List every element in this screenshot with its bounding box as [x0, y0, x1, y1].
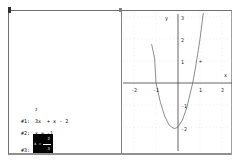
algebra-window[interactable]: 2 #1:3x + x - 2 #2:x = -1 #3: 2 x = 3: [9, 11, 121, 153]
y-tick-2: 2: [181, 37, 184, 43]
y-tick-neg2: -2: [181, 126, 187, 132]
lhs: x =: [34, 141, 41, 146]
x-axis-label: x: [224, 72, 227, 78]
parabola-curve: [152, 13, 204, 129]
highlighted-expression[interactable]: 2 x = 3: [33, 134, 53, 153]
y-axis-label: y: [165, 15, 168, 22]
plot-window[interactable]: y x 3 2 1 -1 -2 -2 -1 1 2 +: [121, 11, 231, 153]
plot-canvas[interactable]: y x 3 2 1 -1 -2 -2 -1 1 2 +: [122, 11, 232, 153]
x-tick-neg1: -1: [153, 87, 159, 93]
numerator: 2: [48, 136, 50, 141]
y-tick-1: 1: [181, 59, 184, 65]
x-tick-neg2: -2: [131, 87, 137, 93]
expression-3[interactable]: #3:: [9, 141, 35, 159]
y-tick-3: 3: [181, 15, 184, 21]
x-tick-2: 2: [221, 87, 224, 93]
cursor-marker: +: [199, 58, 202, 64]
x-tick-1: 1: [199, 87, 202, 93]
y-tick-neg1: -1: [181, 103, 187, 109]
fraction-bar: [43, 144, 51, 145]
grid: [123, 12, 232, 152]
denominator: 3: [48, 146, 50, 151]
